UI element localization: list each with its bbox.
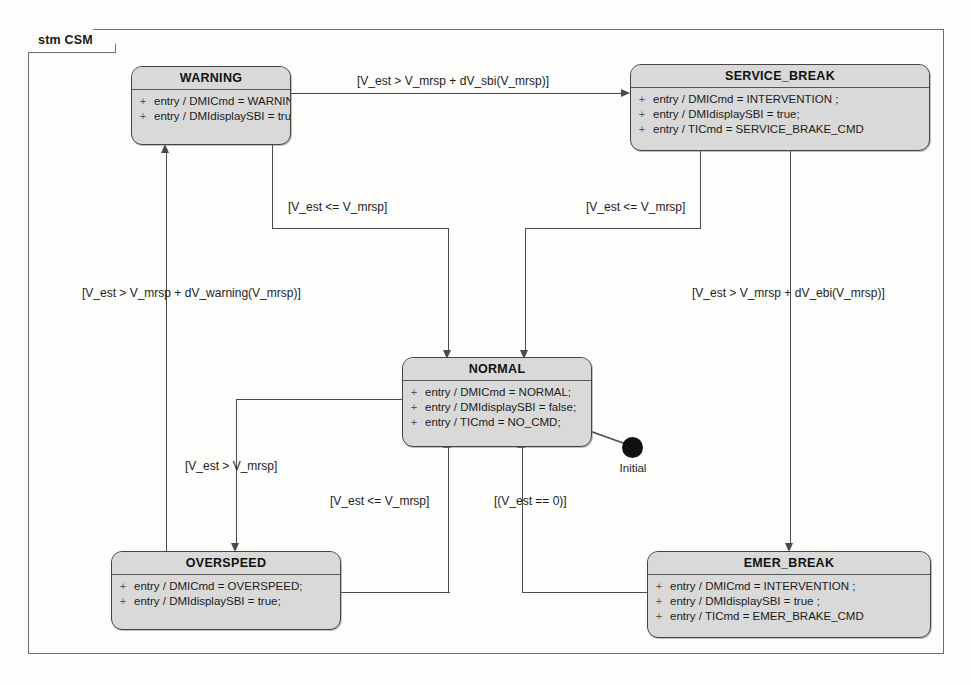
initial-pseudostate [622, 437, 643, 458]
transition-warning-to-normal-line-2 [272, 228, 449, 229]
guard-normal-to-overspeed: [V_est > V_mrsp] [185, 459, 277, 473]
visibility-marker: + [648, 609, 670, 624]
entry-text: entry / DMICmd = INTERVENTION ; [670, 579, 930, 594]
state-emer-break[interactable]: EMER_BREAK + entry / DMICmd = INTERVENTI… [647, 551, 931, 638]
state-normal-entry-2: + entry / TICmd = NO_CMD; [403, 415, 591, 430]
transition-service-break-to-normal-line-3 [525, 228, 526, 353]
state-service-break[interactable]: SERVICE_BREAK + entry / DMICmd = INTERVE… [630, 64, 930, 151]
entry-text: entry / DMICmd = OVERSPEED; [134, 579, 340, 594]
visibility-marker: + [403, 400, 425, 415]
entry-text: entry / DMICmd = WARNING; [154, 94, 291, 109]
state-normal-title: NORMAL [403, 358, 591, 381]
state-emer-break-body: + entry / DMICmd = INTERVENTION ; + entr… [648, 575, 930, 628]
guard-service-break-to-emer-break: [V_est > V_mrsp + dV_ebi(V_mrsp)] [692, 286, 885, 300]
guard-overspeed-to-normal: [V_est <= V_mrsp] [330, 494, 429, 508]
state-warning-body: + entry / DMICmd = WARNING; + entry / DM… [132, 90, 290, 128]
transition-service-break-to-normal-line-1 [700, 150, 701, 229]
state-service-break-entry-0: + entry / DMICmd = INTERVENTION ; [631, 92, 929, 107]
visibility-marker: + [112, 579, 134, 594]
transition-emer-break-to-normal-line-1 [522, 592, 648, 593]
state-emer-break-title: EMER_BREAK [648, 552, 930, 575]
visibility-marker: + [631, 122, 653, 137]
visibility-marker: + [112, 594, 134, 609]
state-machine-diagram: stm CSM [V_est > V_mrsp + dV_sbi(V_mrsp)… [0, 0, 971, 685]
state-service-break-entry-1: + entry / DMIdisplaySBI = true; [631, 107, 929, 122]
visibility-marker: + [132, 109, 154, 124]
transition-warning-to-normal-line-3 [448, 228, 449, 353]
entry-text: entry / DMICmd = INTERVENTION ; [653, 92, 929, 107]
state-warning-entry-0: + entry / DMICmd = WARNING; [132, 94, 290, 109]
transition-overspeed-to-normal-line-1 [340, 592, 450, 593]
frame-label: stm CSM [38, 33, 93, 47]
guard-overspeed-to-warning: [V_est > V_mrsp + dV_warning(V_mrsp)] [82, 286, 301, 300]
entry-text: entry / DMIdisplaySBI = true; [653, 107, 929, 122]
state-overspeed[interactable]: OVERSPEED + entry / DMICmd = OVERSPEED; … [111, 551, 341, 630]
entry-text: entry / DMIdisplaySBI = true; [134, 594, 340, 609]
visibility-marker: + [132, 94, 154, 109]
guard-warning-to-service-break: [V_est > V_mrsp + dV_sbi(V_mrsp)] [357, 74, 549, 88]
entry-text: entry / DMICmd = NORMAL; [425, 385, 591, 400]
state-normal-entry-1: + entry / DMIdisplaySBI = false; [403, 400, 591, 415]
transition-warning-to-service-break-arrowhead [621, 89, 630, 97]
transition-overspeed-to-warning-line-1 [166, 152, 167, 556]
transition-service-break-to-emer-break-line [790, 150, 791, 546]
state-overspeed-body: + entry / DMICmd = OVERSPEED; + entry / … [112, 575, 340, 613]
transition-normal-to-overspeed-line-1 [236, 399, 402, 400]
transition-warning-to-normal-line-1 [272, 144, 273, 229]
entry-text: entry / DMIdisplaySBI = true; [154, 109, 291, 124]
visibility-marker: + [648, 579, 670, 594]
entry-text: entry / DMIdisplaySBI = true ; [670, 594, 930, 609]
entry-text: entry / TICmd = SERVICE_BRAKE_CMD [653, 122, 929, 137]
state-overspeed-entry-0: + entry / DMICmd = OVERSPEED; [112, 579, 340, 594]
guard-emer-break-to-normal: [(V_est == 0)] [494, 494, 567, 508]
state-warning-title: WARNING [132, 67, 290, 90]
visibility-marker: + [648, 594, 670, 609]
state-normal-entry-0: + entry / DMICmd = NORMAL; [403, 385, 591, 400]
visibility-marker: + [631, 92, 653, 107]
entry-text: entry / TICmd = NO_CMD; [425, 415, 591, 430]
state-warning[interactable]: WARNING + entry / DMICmd = WARNING; + en… [131, 66, 291, 145]
state-warning-entry-1: + entry / DMIdisplaySBI = true; [132, 109, 290, 124]
visibility-marker: + [631, 107, 653, 122]
state-overspeed-title: OVERSPEED [112, 552, 340, 575]
state-emer-break-entry-2: + entry / TICmd = EMER_BRAKE_CMD [648, 609, 930, 624]
transition-overspeed-to-warning-arrowhead [161, 144, 169, 153]
state-overspeed-entry-1: + entry / DMIdisplaySBI = true; [112, 594, 340, 609]
transition-service-break-to-normal-line-2 [525, 228, 701, 229]
state-emer-break-entry-1: + entry / DMIdisplaySBI = true ; [648, 594, 930, 609]
state-normal-body: + entry / DMICmd = NORMAL; + entry / DMI… [403, 381, 591, 434]
initial-label: Initial [601, 462, 665, 474]
state-normal[interactable]: NORMAL + entry / DMICmd = NORMAL; + entr… [402, 357, 592, 447]
state-service-break-title: SERVICE_BREAK [631, 65, 929, 88]
entry-text: entry / DMIdisplaySBI = false; [425, 400, 591, 415]
state-service-break-body: + entry / DMICmd = INTERVENTION ; + entr… [631, 88, 929, 141]
visibility-marker: + [403, 385, 425, 400]
state-service-break-entry-2: + entry / TICmd = SERVICE_BRAKE_CMD [631, 122, 929, 137]
guard-warning-to-normal: [V_est <= V_mrsp] [288, 200, 387, 214]
entry-text: entry / TICmd = EMER_BRAKE_CMD [670, 609, 930, 624]
guard-service-break-to-normal: [V_est <= V_mrsp] [586, 200, 685, 214]
visibility-marker: + [403, 415, 425, 430]
transition-overspeed-to-normal-line-2 [448, 447, 449, 593]
transition-emer-break-to-normal-line-2 [522, 447, 523, 593]
state-emer-break-entry-0: + entry / DMICmd = INTERVENTION ; [648, 579, 930, 594]
transition-warning-to-service-break-line [290, 93, 623, 94]
